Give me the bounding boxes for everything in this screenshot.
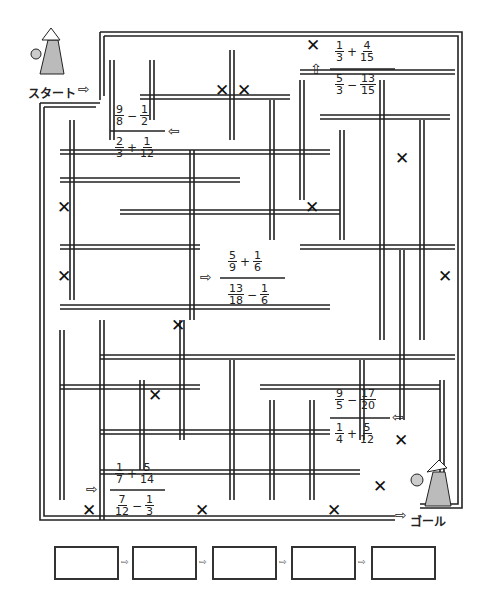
start-arrow-icon: ⇨ <box>78 82 90 96</box>
x-mark-icon: ✕ <box>195 502 209 519</box>
goal-label: ゴール <box>410 512 446 529</box>
problem-3-bottom: 1318 − 16 <box>228 283 269 306</box>
penguin-goal-illustration <box>405 458 465 510</box>
problem-3-arrow-icon: ⇨ <box>200 270 212 284</box>
answer-arrow-icon: ⇨ <box>279 557 287 567</box>
goal-arrow-icon: ⇨ <box>395 508 407 522</box>
answer-box-4[interactable] <box>291 546 356 580</box>
x-mark-icon: ✕ <box>148 387 162 404</box>
x-mark-icon: ✕ <box>82 502 96 519</box>
x-mark-icon: ✕ <box>394 432 408 449</box>
answer-arrow-icon: ⇨ <box>358 557 366 567</box>
problem-2-top: 98 − 12 <box>115 104 149 127</box>
problem-5-top: 17 + 514 <box>115 462 154 485</box>
x-mark-icon: ✕ <box>57 268 71 285</box>
x-mark-icon: ✕ <box>438 268 452 285</box>
problem-2-bottom: 23 + 112 <box>115 136 154 159</box>
answer-arrow-icon: ⇨ <box>199 557 207 567</box>
x-mark-icon: ✕ <box>171 317 185 334</box>
problem-2-arrow-icon: ⇦ <box>168 124 180 138</box>
x-mark-icon: ✕ <box>395 150 409 167</box>
problem-1-arrow-icon: ⇧ <box>310 62 322 76</box>
problem-5-arrow-icon: ⇨ <box>86 482 98 496</box>
penguin-start-illustration <box>30 28 72 76</box>
answer-box-1[interactable] <box>54 546 119 580</box>
x-mark-icon: ✕ <box>306 37 320 54</box>
problem-4-top: 95 − 1720 <box>335 388 376 411</box>
start-label: スタート <box>28 84 76 101</box>
x-mark-icon: ✕ <box>215 82 229 99</box>
problem-4-arrow-icon: ⇦ <box>392 410 404 424</box>
x-mark-icon: ✕ <box>305 199 319 216</box>
answer-box-5[interactable] <box>371 546 436 580</box>
answer-box-2[interactable] <box>132 546 197 580</box>
problem-3-top: 59 + 16 <box>228 250 262 273</box>
problem-5-bottom: 712 − 13 <box>115 494 154 517</box>
problem-1-bottom: 53 − 1315 <box>335 73 376 96</box>
x-mark-icon: ✕ <box>373 478 387 495</box>
problem-4-bottom: 14 + 512 <box>335 422 374 445</box>
x-mark-icon: ✕ <box>57 199 71 216</box>
x-mark-icon: ✕ <box>237 82 251 99</box>
x-mark-icon: ✕ <box>327 502 341 519</box>
problem-1-top: 13 + 415 <box>335 40 374 63</box>
answer-box-3[interactable] <box>212 546 277 580</box>
answer-arrow-icon: ⇨ <box>121 557 129 567</box>
